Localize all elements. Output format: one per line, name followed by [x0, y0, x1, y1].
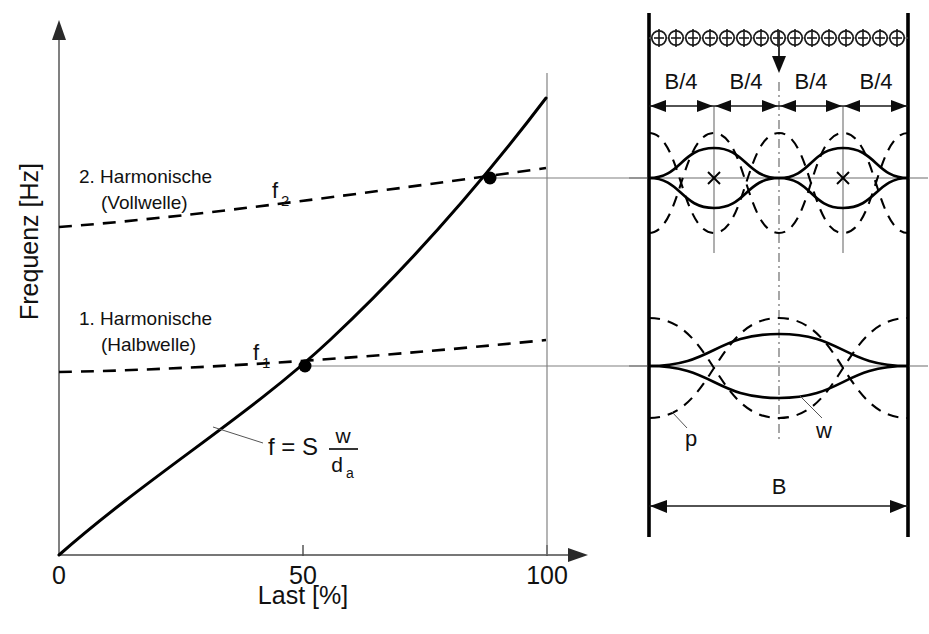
- roller-icon: [822, 29, 836, 47]
- chart-area: Frequenz [Hz] Last [%] 0 50 100 2. Harmo…: [15, 20, 648, 609]
- roller-icon: [720, 29, 734, 47]
- f1-symbol-subscript: 1: [262, 354, 270, 371]
- wave-panel: B/4 B/4 B/4 B/4: [629, 13, 928, 537]
- harmonic2-label-line1: 2. Harmonische: [79, 166, 212, 187]
- f1-symbol-letter: f: [253, 340, 260, 365]
- quarter-label-1: B/4: [664, 69, 697, 94]
- formula-denominator: d: [331, 453, 343, 476]
- formula-numerator: w: [334, 424, 351, 447]
- roller-icon: [737, 29, 751, 47]
- harmonic1-label-line1: 1. Harmonische: [79, 308, 212, 329]
- x-tick-label-100: 100: [526, 561, 568, 589]
- harmonic1-label-line2: (Halbwelle): [101, 334, 196, 355]
- x-axis: [59, 548, 588, 562]
- roller-icon: [686, 29, 700, 47]
- overall-width-label: B: [772, 474, 787, 499]
- frequency-formula: f = S w d a: [268, 424, 358, 481]
- formula-leader-line: [213, 427, 263, 443]
- intersection-marker-f1: [299, 360, 312, 373]
- harmonic2-label-line2: (Vollwelle): [101, 192, 188, 213]
- formula-left-side: f = S: [268, 433, 318, 460]
- roller-icon: [856, 29, 870, 47]
- f1-symbol: f 1: [253, 340, 270, 371]
- overall-width-dimension: B: [649, 474, 908, 513]
- roller-icon: [669, 29, 683, 47]
- y-axis-title: Frequenz [Hz]: [15, 163, 43, 320]
- roller-icon: [754, 29, 768, 47]
- figure-root: Frequenz [Hz] Last [%] 0 50 100 2. Harmo…: [0, 0, 929, 634]
- intersection-marker-f2: [484, 172, 497, 185]
- x-tick-label-0: 0: [52, 561, 66, 589]
- formula-denominator-subscript: a: [346, 465, 354, 481]
- x-tick-label-50: 50: [289, 561, 317, 589]
- roller-icon: [805, 29, 819, 47]
- y-axis: [52, 20, 66, 555]
- roller-icon: [703, 29, 717, 47]
- roller-icon: [873, 29, 887, 47]
- deflection-label: w: [815, 418, 832, 443]
- roller-icon: [839, 29, 853, 47]
- technical-diagram-svg: Frequenz [Hz] Last [%] 0 50 100 2. Harmo…: [0, 0, 929, 634]
- roller-icon: [771, 29, 785, 47]
- f2-symbol-subscript: 2: [281, 192, 289, 209]
- f2-symbol-letter: f: [272, 178, 279, 203]
- quarter-label-3: B/4: [794, 69, 827, 94]
- roller-icon: [890, 29, 904, 47]
- pressure-label: p: [685, 426, 697, 451]
- roller-icon: [788, 29, 802, 47]
- quarter-label-4: B/4: [859, 69, 892, 94]
- quarter-label-2: B/4: [729, 69, 762, 94]
- f2-symbol: f 2: [272, 178, 289, 209]
- roller-icon: [652, 29, 666, 47]
